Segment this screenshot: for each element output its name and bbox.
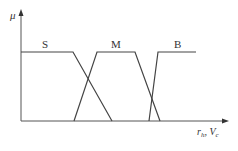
y-axis-label: μ: [10, 10, 16, 21]
x-label-sep: ,: [204, 126, 207, 137]
y-axis-arrow-icon: [19, 9, 24, 16]
x-label-v-sub: c: [216, 131, 219, 139]
membership-function-diagram: μ S M B rh, Vc: [0, 0, 238, 151]
set-label-b: B: [174, 39, 181, 50]
set-label-s: S: [42, 39, 48, 50]
x-axis-arrow-icon: [222, 119, 229, 124]
set-m-curve: [74, 52, 160, 121]
x-axis-label: rh, Vc: [197, 127, 219, 139]
set-s-curve: [21, 52, 112, 121]
set-label-m: M: [111, 39, 121, 50]
